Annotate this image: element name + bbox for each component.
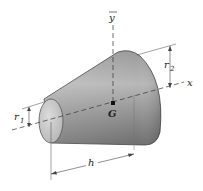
frustum-diagram: x y G r 2 r 1 h	[0, 0, 203, 191]
x-axis-label: x	[187, 77, 193, 88]
centroid-label: G	[108, 108, 117, 119]
centroid-point	[111, 101, 115, 105]
svg-text:h: h	[88, 157, 94, 168]
svg-text:2: 2	[169, 65, 175, 73]
y-axis-label: y	[108, 12, 115, 23]
svg-text:1: 1	[20, 117, 24, 125]
